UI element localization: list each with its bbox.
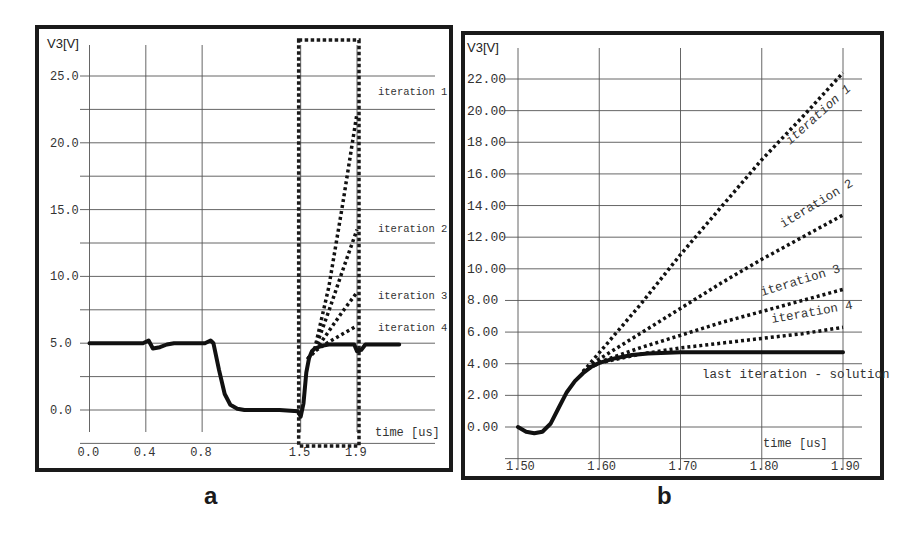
x-axis-title: time [us] [763,437,828,451]
x-tick-label: 1.80 [750,460,779,474]
y-tick-label: 20.0 [50,137,79,151]
annotation-iteration-4: iteration 4 [378,322,447,334]
y-tick-label: 12.00 [467,230,506,245]
y-tick-label: 0.0 [50,404,72,418]
x-tick-label: 1.90 [831,460,860,474]
y-axis-title: V3[V] [47,36,79,51]
annotation-last-iteration-solution: last iteration - solution [702,368,890,382]
y-tick-label: 16.00 [467,167,506,182]
y-tick-label: 14.00 [467,199,506,214]
y-tick-label: 10.00 [467,262,506,277]
y-tick-label: 22.00 [467,72,506,87]
x-tick-label: 0.0 [78,446,100,460]
x-tick-label: 1.9 [345,446,367,460]
panel-label-b: b [657,482,672,510]
y-axis-title: V3[V] [467,40,499,55]
y-tick-label: 4.00 [467,357,498,372]
panel-label-a: a [204,482,217,510]
annotation-iteration-3: iteration 3 [378,290,447,302]
x-tick-label: 0.4 [134,446,156,460]
x-tick-label: 1.5 [289,446,311,460]
y-tick-label: 20.00 [467,104,506,119]
annotation-iteration-1: iteration 1 [378,86,447,98]
y-tick-label: 15.0 [50,204,79,218]
figure: 0.05.010.015.020.025.00.00.40.81.51.9V3[… [0,0,909,536]
y-tick-label: 10.0 [50,270,79,284]
chart-b [463,33,882,478]
y-tick-label: 18.00 [467,135,506,150]
y-tick-label: 8.00 [467,293,498,308]
x-axis-title: time [us] [375,426,440,440]
y-tick-label: 2.00 [467,388,498,403]
y-tick-label: 0.00 [467,420,498,435]
y-tick-label: 6.00 [467,325,498,340]
x-tick-label: 1.50 [506,460,535,474]
annotation-iteration-2: iteration 2 [378,223,447,235]
y-tick-label: 25.0 [50,70,79,84]
x-tick-label: 1.70 [669,460,698,474]
x-tick-label: 0.8 [190,446,212,460]
x-tick-label: 1.60 [587,460,616,474]
y-tick-label: 5.0 [50,337,72,351]
chart-panel-a: 0.05.010.015.020.025.00.00.40.81.51.9V3[… [0,0,909,536]
